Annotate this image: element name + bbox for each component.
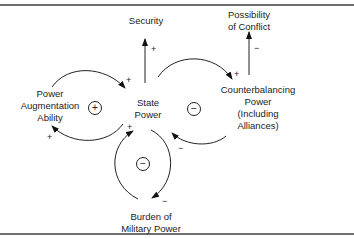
sign-burden-state: + xyxy=(127,123,132,132)
sign-augmentation-state: + xyxy=(126,76,131,85)
loop-sign-counterbalancing: − xyxy=(187,102,201,116)
node-security: Security xyxy=(120,15,172,27)
sign-counter-conflict: − xyxy=(254,44,259,53)
sign-state-augmentation: + xyxy=(47,133,52,142)
node-counterbalancing-power: Counterbalancing Power (Including Allian… xyxy=(216,84,300,132)
arrow-state-to-augmentation xyxy=(52,124,123,140)
sign-state-counter: + xyxy=(234,70,239,79)
arrow-augmentation-to-state xyxy=(52,71,125,88)
sign-state-burden: − xyxy=(162,197,167,206)
node-burden-of-military-power: Burden of Military Power xyxy=(112,211,190,235)
loop-sign-augmentation: + xyxy=(88,101,102,115)
node-power-augmentation-ability: Power Augmentation Ability xyxy=(18,88,82,124)
arrow-burden-to-state xyxy=(115,131,138,199)
node-possibility-of-conflict: Possibility of Conflict xyxy=(218,9,280,33)
loop-sign-burden: − xyxy=(136,157,150,171)
node-state-power: State Power xyxy=(126,97,170,121)
arrow-state-to-counter xyxy=(158,59,232,79)
arrow-state-to-burden xyxy=(151,130,171,198)
sign-state-security: + xyxy=(151,45,156,54)
sign-counter-state: − xyxy=(178,144,183,153)
